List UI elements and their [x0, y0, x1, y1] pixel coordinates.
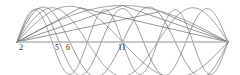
- curve-chord-2: [17, 6, 228, 42]
- curve-mode-2: [17, 6, 228, 75]
- curve-mode-1: [17, 6, 228, 42]
- curve-series-group: [17, 6, 228, 75]
- curve-chord-3: [17, 12, 228, 42]
- node-label-2: 2: [19, 44, 23, 52]
- sine-harmonics-figure: 2 5 6 11: [0, 0, 240, 75]
- node-label-6: 6: [66, 44, 70, 52]
- harmonics-plot-svg: [0, 0, 240, 75]
- node-label-5: 5: [55, 44, 59, 52]
- node-label-11: 11: [118, 44, 126, 52]
